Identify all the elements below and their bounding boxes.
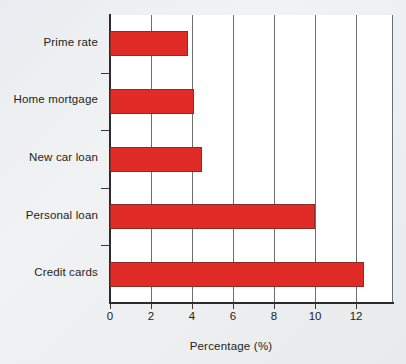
x-axis-tick-label: 12 xyxy=(344,310,368,322)
x-axis-tick-2 xyxy=(151,303,152,309)
bar xyxy=(110,262,364,287)
gridline-8 xyxy=(274,15,275,303)
bar xyxy=(110,31,188,56)
gridline-10 xyxy=(315,15,316,303)
bar xyxy=(110,204,315,229)
x-axis-tick-8 xyxy=(274,303,275,309)
y-axis-category-label: Prime rate xyxy=(43,36,98,48)
bar-chart-figure: Prime rateHome mortgageNew car loanPerso… xyxy=(0,0,406,364)
x-axis-tick-10 xyxy=(315,303,316,309)
gridline-6 xyxy=(233,15,234,303)
y-axis-separator-tick xyxy=(101,73,110,74)
x-axis-tick-label: 0 xyxy=(98,310,122,322)
x-axis-tick-label: 10 xyxy=(303,310,327,322)
plot-right-border xyxy=(392,15,393,303)
x-axis-tick-6 xyxy=(233,303,234,309)
y-axis-category-label: Home mortgage xyxy=(14,93,98,105)
x-axis-tick-12 xyxy=(356,303,357,309)
x-axis-tick-label: 4 xyxy=(180,310,204,322)
y-axis-separator-tick xyxy=(101,130,110,131)
y-axis-separator-tick xyxy=(101,245,110,246)
x-axis-tick-label: 8 xyxy=(262,310,286,322)
x-axis-title-text: Percentage (%) xyxy=(190,340,273,352)
y-axis-separator-tick xyxy=(101,188,110,189)
x-axis-tick-label: 2 xyxy=(139,310,163,322)
y-axis-category-label: Personal loan xyxy=(26,209,98,221)
x-axis-tick-4 xyxy=(192,303,193,309)
bar xyxy=(110,89,194,114)
gridline-12 xyxy=(356,15,357,303)
bar xyxy=(110,147,202,172)
x-axis-tick-0 xyxy=(110,303,111,309)
y-axis-category-label: New car loan xyxy=(29,151,98,163)
x-axis-tick-label: 6 xyxy=(221,310,245,322)
x-axis-title: Percentage (%) xyxy=(0,340,406,352)
y-axis-category-label: Credit cards xyxy=(34,266,98,278)
